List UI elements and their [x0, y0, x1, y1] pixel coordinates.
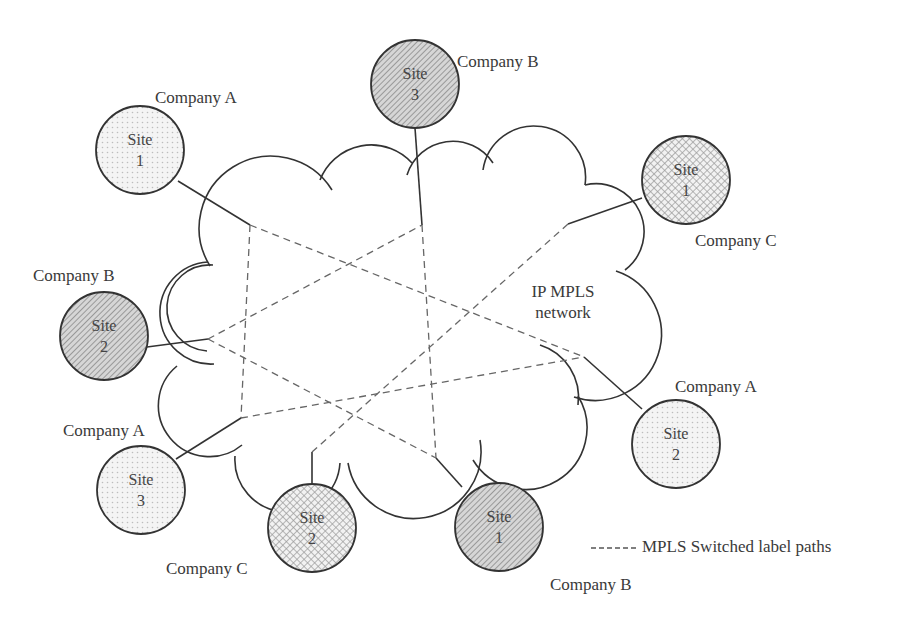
- site-b2-label: Site 2: [74, 315, 134, 357]
- site-number: 1: [110, 150, 170, 171]
- site-word: Site: [469, 506, 529, 527]
- company-label-a1: Company A: [155, 89, 237, 106]
- company-label-a3: Company A: [63, 422, 145, 439]
- site-word: Site: [282, 507, 342, 528]
- site-number: 2: [74, 336, 134, 357]
- legend: MPLS Switched label paths: [590, 537, 831, 557]
- label-switched-paths: [208, 224, 584, 458]
- network-label-line1: IP MPLS: [508, 281, 618, 302]
- site-c2-label: Site 2: [282, 507, 342, 549]
- company-label-b2: Company B: [33, 267, 115, 284]
- network-label: IP MPLS network: [508, 281, 618, 323]
- site-word: Site: [385, 63, 445, 84]
- company-label-c1: Company C: [695, 232, 777, 249]
- company-label-b1: Company B: [550, 576, 632, 593]
- site-word: Site: [656, 159, 716, 180]
- network-label-line2: network: [508, 302, 618, 323]
- site-word: Site: [110, 129, 170, 150]
- site-b1-label: Site 1: [469, 506, 529, 548]
- site-a1-label: Site 1: [110, 129, 170, 171]
- site-word: Site: [646, 423, 706, 444]
- site-c1-label: Site 1: [656, 159, 716, 201]
- site-number: 3: [385, 84, 445, 105]
- legend-label: MPLS Switched label paths: [642, 537, 831, 556]
- site-a3-label: Site 3: [111, 469, 171, 511]
- site-b3-label: Site 3: [385, 63, 445, 105]
- site-number: 3: [111, 490, 171, 511]
- site-word: Site: [74, 315, 134, 336]
- site-number: 2: [646, 444, 706, 465]
- site-number: 2: [282, 528, 342, 549]
- site-a2-label: Site 2: [646, 423, 706, 465]
- mpls-network-diagram: [0, 0, 904, 627]
- site-word: Site: [111, 469, 171, 490]
- company-label-c2: Company C: [166, 560, 248, 577]
- company-label-a2: Company A: [675, 378, 757, 395]
- site-number: 1: [469, 527, 529, 548]
- company-label-b3: Company B: [457, 53, 539, 70]
- site-number: 1: [656, 180, 716, 201]
